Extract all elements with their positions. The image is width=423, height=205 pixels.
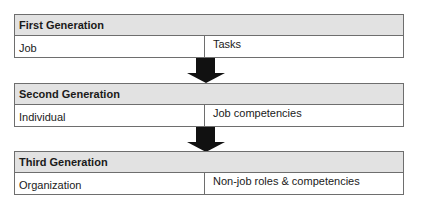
down-arrow-icon [187, 127, 225, 153]
generation-row: Individual Job competencies [15, 105, 403, 126]
basis-cell: Job competencies [205, 103, 403, 126]
generation-title: First Generation [15, 15, 403, 36]
second-generation-box: Second Generation Individual Job compete… [14, 83, 404, 127]
generation-title: Third Generation [15, 152, 403, 173]
basis-cell: Non-job roles & competencies [205, 171, 403, 194]
first-generation-box: First Generation Job Tasks [14, 14, 404, 58]
third-generation-box: Third Generation Organization Non-job ro… [14, 151, 404, 195]
focus-cell: Individual [15, 105, 205, 126]
focus-cell: Organization [15, 173, 205, 194]
generation-title: Second Generation [15, 84, 403, 105]
generation-row: Organization Non-job roles & competencie… [15, 173, 403, 194]
basis-cell: Tasks [205, 34, 403, 57]
down-arrow-icon [187, 58, 225, 84]
generation-row: Job Tasks [15, 36, 403, 57]
focus-cell: Job [15, 36, 205, 57]
